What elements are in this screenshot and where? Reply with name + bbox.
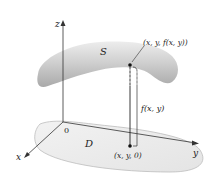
base-point [128,144,132,148]
origin-label: 0 [64,126,69,135]
height-label: f(x, y) [140,104,164,113]
surface-s [37,42,178,88]
z-axis-arrow-icon [61,20,66,26]
base-point-label: (x, y, 0) [114,151,142,160]
region-label: D [84,138,93,149]
surface-over-region-diagram: z x y 0 S D (x, y, f(x, y)) f(x, y) (x, … [0,0,212,186]
surface-label: S [100,46,107,57]
surface-point-label: (x, y, f(x, y)) [143,38,188,47]
y-axis-arrow-icon [192,141,199,146]
surface-point [128,63,132,67]
x-axis-label: x [16,152,21,162]
z-axis-label: z [54,19,60,29]
y-axis-label: y [192,148,199,158]
region-d [35,121,203,172]
